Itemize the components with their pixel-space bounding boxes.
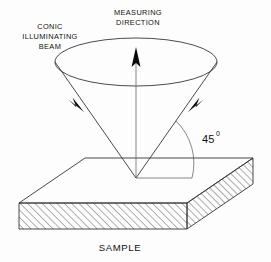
angle-value: 45 bbox=[202, 133, 215, 145]
angle-indicator-45 bbox=[136, 121, 194, 178]
optical-measurement-diagram: MEASURING DIRECTION CONIC ILLUMINATING B… bbox=[0, 0, 271, 262]
cone-right-slant bbox=[136, 62, 217, 178]
slab-right-face-hatch bbox=[187, 158, 253, 229]
label-angle-45-degrees: 45 0 bbox=[202, 130, 220, 145]
angle-arc bbox=[176, 121, 194, 178]
conic-beam-line2: ILLUMINATING bbox=[22, 32, 77, 41]
measuring-direction-line2: DIRECTION bbox=[116, 18, 160, 27]
slab-front-face-hatch bbox=[19, 203, 187, 229]
label-conic-illuminating-beam: CONIC ILLUMINATING BEAM bbox=[22, 22, 77, 51]
label-measuring-direction: MEASURING DIRECTION bbox=[114, 8, 162, 27]
measuring-direction-line1: MEASURING bbox=[114, 8, 162, 17]
cone-left-slant bbox=[55, 62, 136, 178]
conic-beam-line3: BEAM bbox=[39, 42, 61, 51]
diagram-canvas: MEASURING DIRECTION CONIC ILLUMINATING B… bbox=[0, 0, 271, 262]
angle-degree-symbol: 0 bbox=[216, 130, 220, 137]
conic-beam-line1: CONIC bbox=[37, 22, 63, 31]
sample-label: SAMPLE bbox=[99, 242, 142, 253]
